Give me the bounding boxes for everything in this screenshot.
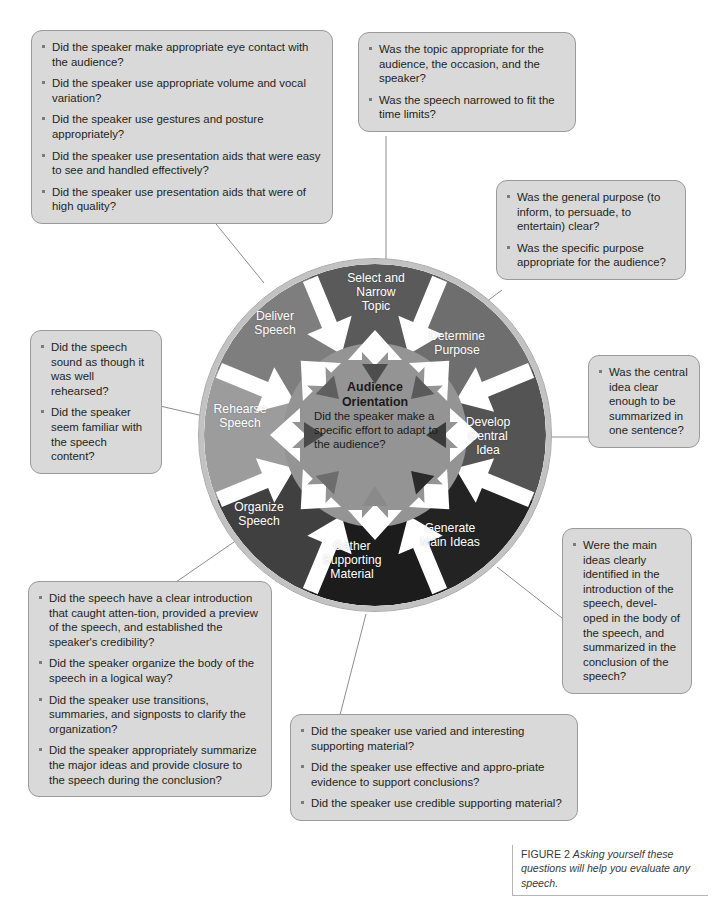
list-item: Did the speaker seem familiar with the s… [39,405,151,463]
list-item: Did the speaker use appropriate volume a… [40,76,322,105]
callout-list: Did the speaker make appropriate eye con… [40,40,322,214]
callout-select-narrow-topic: Was the topic appropriate for the audien… [358,32,576,132]
list-item: Did the speaker use gestures and posture… [40,112,322,141]
list-item: Did the speaker use varied and interesti… [299,724,567,753]
list-item: Were the main ideas clearly identified i… [571,538,681,684]
callout-list: Did the speech sound as though it was we… [39,340,151,464]
figure-page: Select and Narrow Topic Determine Purpos… [0,0,714,910]
list-item: Was the speech narrowed to fit the time … [367,93,565,122]
callout-list: Did the speaker use varied and interesti… [299,724,567,811]
callout-deliver-speech: Did the speaker make appropriate eye con… [31,30,333,224]
callout-list: Was the topic appropriate for the audien… [367,42,565,122]
list-item: Did the speaker organize the body of the… [37,656,261,685]
list-item: Did the speech sound as though it was we… [39,340,151,398]
list-item: Did the speaker use credible supporting … [299,796,567,811]
connector-gather-supporting-material [340,614,366,715]
list-item: Was the specific purpose appropriate for… [505,241,675,270]
speech-process-wheel [196,256,554,614]
callout-organize-speech: Did the speech have a clear introduction… [28,581,272,797]
callout-rehearse-speech: Did the speech sound as though it was we… [30,330,162,474]
callout-determine-purpose: Was the general purpose (to inform, to p… [496,180,686,280]
list-item: Was the topic appropriate for the audien… [367,42,565,86]
callout-develop-central-idea: Was the central idea clear enough to be … [588,355,700,448]
list-item: Was the central idea clear enough to be … [597,365,689,438]
callout-generate-main-ideas: Were the main ideas clearly identified i… [562,528,692,694]
callout-list: Did the speech have a clear introduction… [37,591,261,787]
callout-gather-supporting-material: Did the speaker use varied and interesti… [290,714,578,821]
callout-list: Were the main ideas clearly identified i… [571,538,681,684]
figure-label: FIGURE 2 [521,848,570,860]
list-item: Did the speaker appropriately summarize … [37,743,261,787]
list-item: Did the speaker use presentation aids th… [40,185,322,214]
figure-caption: FIGURE 2 Asking yourself these questions… [512,845,708,896]
list-item: Was the general purpose (to inform, to p… [505,190,675,234]
list-item: Did the speaker use transitions, summari… [37,693,261,737]
list-item: Did the speaker make appropriate eye con… [40,40,322,69]
list-item: Did the speech have a clear introduction… [37,591,261,649]
list-item: Did the speaker use effective and appro-… [299,760,567,789]
callout-list: Was the general purpose (to inform, to p… [505,190,675,270]
list-item: Did the speaker use presentation aids th… [40,149,322,178]
callout-list: Was the central idea clear enough to be … [597,365,689,438]
